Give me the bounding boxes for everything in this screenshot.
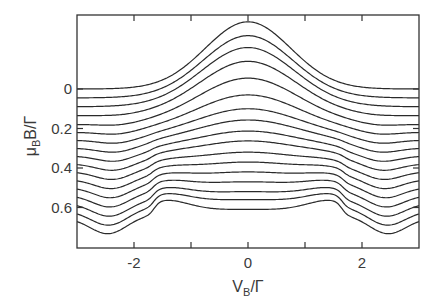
x-tick-label: 2 [358, 254, 366, 271]
curve-line [77, 188, 419, 217]
x-axis-label: VB/Γ [232, 278, 263, 298]
y-tick-label: 0.4 [51, 159, 72, 176]
chart: -20200.20.40.6 VB/Γ μBB/Γ [0, 0, 441, 301]
y-tick-label: 0.6 [51, 199, 72, 216]
curve-line [77, 36, 419, 98]
y-tick-label: 0 [64, 80, 72, 97]
y-axis-label: μBB/Γ [22, 116, 42, 157]
curve-line [77, 131, 419, 161]
curve-line [77, 95, 419, 134]
curve-group [77, 22, 419, 234]
curve-line [77, 141, 419, 170]
curve-line [77, 22, 419, 89]
curve-line [77, 48, 419, 107]
x-tick-label: 0 [244, 254, 252, 271]
y-tick-label: 0.2 [51, 120, 72, 137]
curve-line [77, 61, 419, 115]
curve-line [77, 120, 419, 152]
curve-line [77, 152, 419, 179]
tick-labels: -20200.20.40.6 [51, 80, 366, 271]
x-tick-label: -2 [127, 254, 140, 271]
curve-line [77, 78, 419, 125]
